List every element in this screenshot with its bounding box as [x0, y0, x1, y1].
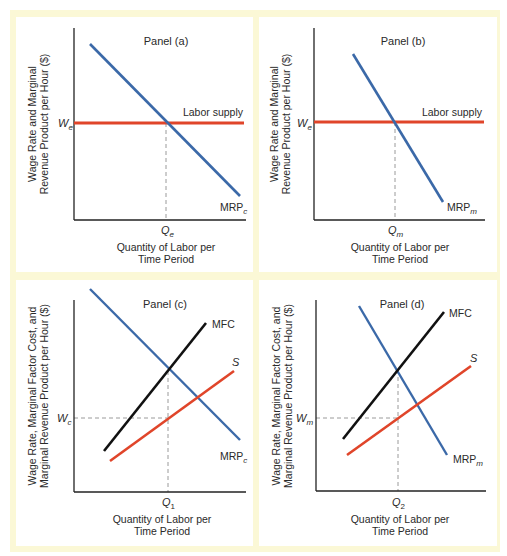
panel-c-wc-tick: Wc — [57, 412, 71, 427]
panel-b-title: Panel (b) — [381, 35, 426, 47]
panel-d-mfc-label: MFC — [449, 307, 472, 319]
panel-c-mfc-label: MFC — [212, 318, 235, 330]
panel-d-xlabel-line2: Time Period — [372, 525, 428, 537]
panel-b-we-tick: We — [297, 117, 312, 132]
panel-c-title: Panel (c) — [143, 298, 187, 310]
panel-c-ylabel-line2: Marginal Revenue Product per Hour ($) — [38, 304, 50, 488]
panel-b-mrp-label: MRPm — [447, 201, 477, 216]
panel-a-ylabel-line2: Revenue Product per Hour ($) — [38, 54, 50, 195]
panel-d-mrp-label: MRPm — [453, 453, 483, 468]
panel-a-xlabel-line2: Time Period — [138, 253, 194, 265]
panel-b: Panel (b) Wage Rate and Marginal Revenue… — [268, 28, 485, 265]
panel-c-mfc-line — [104, 323, 206, 451]
panel-c-mrp-line — [90, 289, 240, 440]
panel-d-ylabel-line2: Marginal Revenue Product per Hour ($) — [282, 304, 294, 488]
panel-a-we-tick: We — [58, 117, 73, 132]
panel-d-xlabel-line1: Quantity of Labor per — [351, 513, 450, 525]
panel-b-qm-tick: Qm — [388, 224, 404, 239]
panel-b-xlabel-line2: Time Period — [372, 253, 428, 265]
panel-c-supply-label: S — [232, 356, 240, 368]
panel-a-ylabel-line1: Wage Rate and Marginal — [26, 66, 38, 182]
panel-d-wm-tick: Wm — [296, 412, 313, 427]
panel-d-supply-label: S — [470, 352, 478, 364]
panel-d-title: Panel (d) — [380, 298, 425, 310]
panel-d-q2-tick: Q2 — [392, 496, 406, 511]
panel-a-labor-supply-label: Labor supply — [183, 106, 244, 118]
panel-c-ylabel-line1: Wage Rate, Marginal Factor Cost, and — [26, 306, 38, 485]
panel-b-xlabel-line1: Quantity of Labor per — [351, 241, 450, 253]
panel-b-ylabel-line1: Wage Rate and Marginal — [268, 66, 280, 182]
panel-d-mrp-line — [359, 306, 447, 455]
panel-c-xlabel-line2: Time Period — [134, 525, 190, 537]
panel-c-q1-tick: Q1 — [162, 496, 176, 511]
panel-a-mrp-line — [90, 44, 240, 196]
panel-c-mrp-label: MRPc — [220, 450, 247, 465]
panel-a-mrp-label: MRPc — [220, 201, 247, 216]
panel-d: Panel (d) Wage Rate, Marginal Factor Cos… — [270, 298, 486, 537]
panel-a-qe-tick: Qe — [161, 224, 175, 239]
panel-d-ylabel-line1: Wage Rate, Marginal Factor Cost, and — [270, 306, 282, 485]
panel-d-mfc-line — [343, 312, 444, 439]
panel-c: Panel (c) Wage Rate, Marginal Factor Cos… — [26, 289, 247, 537]
panel-b-labor-supply-label: Labor supply — [422, 106, 483, 118]
panel-b-mrp-line — [353, 54, 443, 202]
figure-svg: Panel (a) Wage Rate and Marginal Revenue… — [0, 0, 507, 556]
panel-a: Panel (a) Wage Rate and Marginal Revenue… — [26, 28, 247, 265]
panel-b-ylabel-line2: Revenue Product per Hour ($) — [280, 54, 292, 195]
panel-a-xlabel-line1: Quantity of Labor per — [117, 241, 216, 253]
panel-a-title: Panel (a) — [144, 35, 189, 47]
panel-c-xlabel-line1: Quantity of Labor per — [113, 513, 212, 525]
